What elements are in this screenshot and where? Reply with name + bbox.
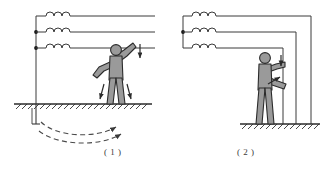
winding-2 xyxy=(183,28,296,32)
left-leg xyxy=(256,88,265,124)
winding-1 xyxy=(36,12,155,16)
winding-3 xyxy=(183,44,283,48)
panel-1-bus xyxy=(34,16,38,103)
right-leg xyxy=(116,78,125,104)
panel-2-caption: ( 2 ) xyxy=(237,147,255,157)
winding-1 xyxy=(183,12,311,16)
torso xyxy=(258,64,272,90)
leg-current-arrow-right xyxy=(127,84,131,99)
winding-2 xyxy=(36,28,155,32)
ground-return-arcs xyxy=(39,122,121,143)
panel-1-ground xyxy=(14,103,152,124)
left-leg xyxy=(107,78,116,104)
panel-2-ground xyxy=(240,124,320,129)
head xyxy=(260,53,271,64)
winding-3 xyxy=(36,44,155,48)
leg-current-arrow-left xyxy=(100,84,104,99)
torso xyxy=(109,56,123,80)
panel-1 xyxy=(14,12,155,143)
diagram-svg xyxy=(0,0,325,172)
panel-2 xyxy=(181,12,320,129)
right-leg xyxy=(265,88,274,124)
figure-canvas: ( 1 ) ( 2 ) xyxy=(0,0,325,172)
panel-1-caption: ( 1 ) xyxy=(104,147,122,157)
head xyxy=(111,45,122,56)
